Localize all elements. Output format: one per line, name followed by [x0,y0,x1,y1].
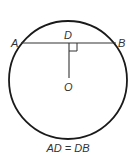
caption: AD = DB [45,142,89,154]
diagram-stage: A B D O AD = DB [0,0,136,156]
label-b: B [118,37,125,49]
label-a: A [10,37,18,49]
right-angle-mark [69,43,77,51]
circle-chord-diagram: A B D O AD = DB [0,0,136,156]
label-d: D [64,29,72,41]
label-o: O [64,81,73,93]
